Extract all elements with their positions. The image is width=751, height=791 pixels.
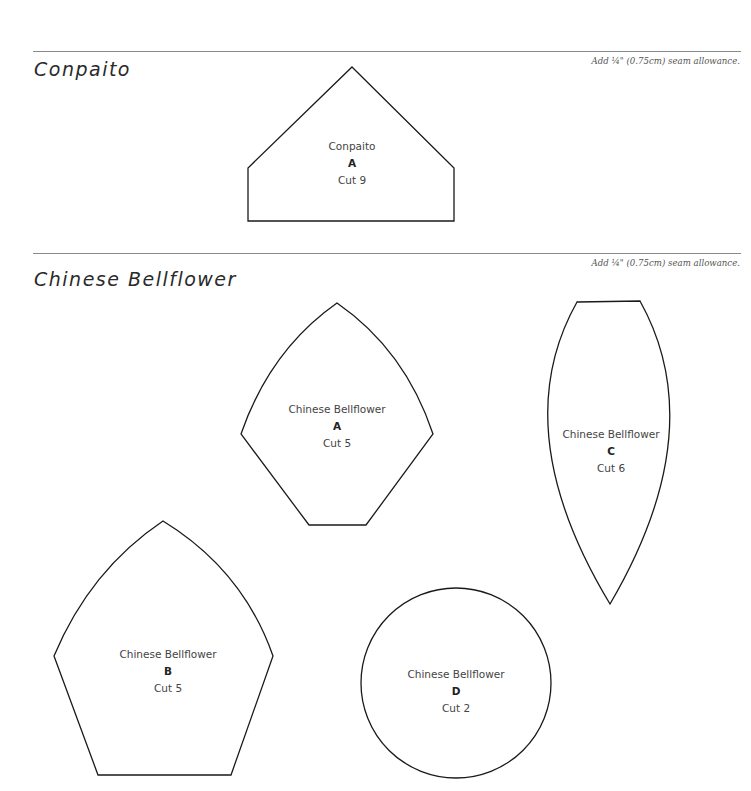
piece-name: Chinese Bellflower <box>119 646 216 663</box>
piece-letter: C <box>562 443 659 460</box>
piece-letter: A <box>288 418 385 435</box>
piece-letter: B <box>119 663 216 680</box>
piece-letter: D <box>407 683 504 700</box>
pattern-pieces-canvas <box>0 0 751 791</box>
piece-label-bellflower-c: Chinese Bellflower C Cut 6 <box>562 426 659 477</box>
piece-cut-count: Cut 9 <box>329 172 376 189</box>
piece-letter: A <box>329 155 376 172</box>
piece-name: Chinese Bellflower <box>407 666 504 683</box>
piece-cut-count: Cut 5 <box>288 435 385 452</box>
piece-name: Chinese Bellflower <box>288 401 385 418</box>
piece-cut-count: Cut 5 <box>119 680 216 697</box>
piece-label-conpaito-a: Conpaito A Cut 9 <box>329 138 376 189</box>
piece-name: Chinese Bellflower <box>562 426 659 443</box>
piece-label-bellflower-b: Chinese Bellflower B Cut 5 <box>119 646 216 697</box>
piece-name: Conpaito <box>329 138 376 155</box>
piece-cut-count: Cut 2 <box>407 700 504 717</box>
piece-label-bellflower-a: Chinese Bellflower A Cut 5 <box>288 401 385 452</box>
piece-label-bellflower-d: Chinese Bellflower D Cut 2 <box>407 666 504 717</box>
piece-cut-count: Cut 6 <box>562 460 659 477</box>
